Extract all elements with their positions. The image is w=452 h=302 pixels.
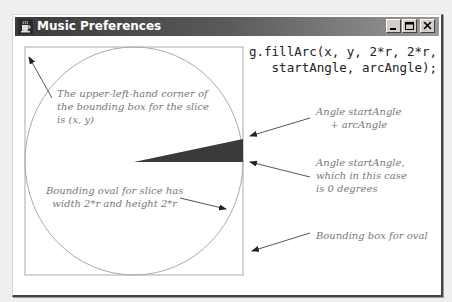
note-line: width 2*r and height 2*r xyxy=(46,197,183,210)
arrow-start-angle xyxy=(250,162,310,177)
note-line: is 0 degrees xyxy=(316,182,407,195)
arrow-end-angle xyxy=(250,118,310,136)
note-line: the bounding box for the slice xyxy=(57,100,209,113)
note-upper-left-corner: The upper-left-hand corner of the boundi… xyxy=(57,87,209,126)
note-line: Bounding box for oval xyxy=(316,229,428,242)
note-line: Angle startAngle xyxy=(316,105,401,118)
note-end-angle: Angle startAngle + arcAngle xyxy=(316,105,401,131)
arrow-box xyxy=(252,233,310,251)
code-snippet: g.fillArc(x, y, 2*r, 2*r, startAngle, ar… xyxy=(249,44,437,76)
code-line-1: g.fillArc(x, y, 2*r, 2*r, xyxy=(249,44,437,60)
arc-wedge xyxy=(134,139,243,162)
note-line: Bounding oval for slice has xyxy=(46,184,183,197)
note-line: which in this case xyxy=(316,169,407,182)
note-line: + arcAngle xyxy=(316,118,401,131)
code-line-2: startAngle, arcAngle); xyxy=(249,60,437,76)
note-line: Angle startAngle, xyxy=(316,156,407,169)
note-line: The upper-left-hand corner of xyxy=(57,87,209,100)
note-line: is (x, y) xyxy=(57,113,209,126)
note-start-angle: Angle startAngle, which in this case is … xyxy=(316,156,407,195)
arrow-oval xyxy=(180,198,226,209)
arrow-upper-left xyxy=(29,57,52,98)
note-bounding-box: Bounding box for oval xyxy=(316,229,428,242)
note-bounding-oval: Bounding oval for slice has width 2*r an… xyxy=(46,184,183,210)
